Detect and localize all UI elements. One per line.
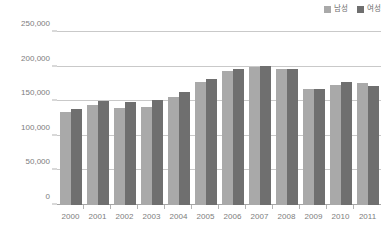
bar-group bbox=[327, 32, 354, 205]
bar-female[interactable] bbox=[179, 92, 190, 205]
legend-label-female: 여성 bbox=[367, 5, 381, 13]
legend-swatch-female-icon bbox=[357, 6, 364, 13]
y-axis-tick-label: 50,000 bbox=[26, 157, 57, 166]
legend-label-male: 남성 bbox=[334, 5, 348, 13]
bar-female[interactable] bbox=[368, 86, 379, 205]
y-axis-tick-label: 250,000 bbox=[21, 19, 57, 28]
legend-swatch-male-icon bbox=[324, 6, 331, 13]
bar-female[interactable] bbox=[341, 82, 352, 205]
bar-female[interactable] bbox=[152, 100, 163, 205]
bar-male[interactable] bbox=[276, 69, 287, 205]
x-axis-tick-mark bbox=[353, 205, 354, 209]
bar-male[interactable] bbox=[114, 108, 125, 205]
y-axis-tick-label: 200,000 bbox=[21, 53, 57, 62]
bar-female[interactable] bbox=[260, 66, 271, 205]
x-axis-tick-mark bbox=[191, 205, 192, 209]
bar-group bbox=[273, 32, 300, 205]
x-axis-tick-label: 2011 bbox=[354, 212, 381, 222]
bar-group bbox=[165, 32, 192, 205]
legend-entry-female[interactable]: 여성 bbox=[357, 5, 381, 13]
x-axis-tick-label: 2006 bbox=[219, 212, 246, 222]
bar-male[interactable] bbox=[222, 71, 233, 205]
x-axis-tick-mark bbox=[137, 205, 138, 209]
bar-female[interactable] bbox=[71, 109, 82, 205]
bar-male[interactable] bbox=[60, 112, 71, 205]
x-axis-tick-mark bbox=[299, 205, 300, 209]
bar-group bbox=[111, 32, 138, 205]
x-axis-tick-mark bbox=[272, 205, 273, 209]
x-axis-tick-label: 2010 bbox=[327, 212, 354, 222]
bar-male[interactable] bbox=[357, 83, 368, 205]
x-axis-labels: 2000200120022003200420052006200720082009… bbox=[57, 212, 381, 222]
x-axis-tick-mark bbox=[218, 205, 219, 209]
x-axis-tick-label: 2009 bbox=[300, 212, 327, 222]
bar-male[interactable] bbox=[249, 67, 260, 205]
bar-female[interactable] bbox=[206, 79, 217, 205]
bar-male[interactable] bbox=[195, 82, 206, 205]
x-axis-tick-label: 2002 bbox=[111, 212, 138, 222]
bar-male[interactable] bbox=[330, 85, 341, 205]
x-axis-tick-label: 2000 bbox=[57, 212, 84, 222]
y-axis-tick-label: 0 bbox=[46, 192, 57, 201]
legend-entry-male[interactable]: 남성 bbox=[324, 5, 348, 13]
bar-female[interactable] bbox=[314, 89, 325, 205]
x-axis-tick-label: 2001 bbox=[84, 212, 111, 222]
bar-group bbox=[300, 32, 327, 205]
x-axis-tick-mark bbox=[83, 205, 84, 209]
x-axis-tick-label: 2007 bbox=[246, 212, 273, 222]
bar-group bbox=[354, 32, 381, 205]
bar-group bbox=[219, 32, 246, 205]
x-axis-tick-mark bbox=[164, 205, 165, 209]
bar-female[interactable] bbox=[125, 102, 136, 205]
x-axis-tick-mark bbox=[245, 205, 246, 209]
y-axis-tick-label: 150,000 bbox=[21, 88, 57, 97]
bar-female[interactable] bbox=[233, 69, 244, 205]
x-axis-tick-label: 2003 bbox=[138, 212, 165, 222]
x-axis-tick-label: 2004 bbox=[165, 212, 192, 222]
x-axis-tick-mark bbox=[110, 205, 111, 209]
bar-series-container bbox=[57, 32, 381, 205]
bar-group bbox=[57, 32, 84, 205]
bar-group bbox=[192, 32, 219, 205]
x-axis-tick-label: 2005 bbox=[192, 212, 219, 222]
bar-male[interactable] bbox=[87, 105, 98, 205]
x-axis-tick-label: 2008 bbox=[273, 212, 300, 222]
bar-male[interactable] bbox=[168, 97, 179, 205]
y-axis-tick-label: 100,000 bbox=[21, 122, 57, 131]
bar-male[interactable] bbox=[303, 89, 314, 205]
bar-female[interactable] bbox=[98, 101, 109, 205]
bar-group bbox=[246, 32, 273, 205]
bar-group bbox=[84, 32, 111, 205]
x-axis-tick-mark bbox=[326, 205, 327, 209]
chart-legend: 남성 여성 bbox=[324, 3, 381, 15]
plot-area: 050,000100,000150,000200,000250,000 bbox=[57, 32, 381, 205]
bar-chart: 남성 여성 050,000100,000150,000200,000250,00… bbox=[0, 0, 387, 237]
bar-male[interactable] bbox=[141, 107, 152, 205]
bar-female[interactable] bbox=[287, 69, 298, 205]
bar-group bbox=[138, 32, 165, 205]
